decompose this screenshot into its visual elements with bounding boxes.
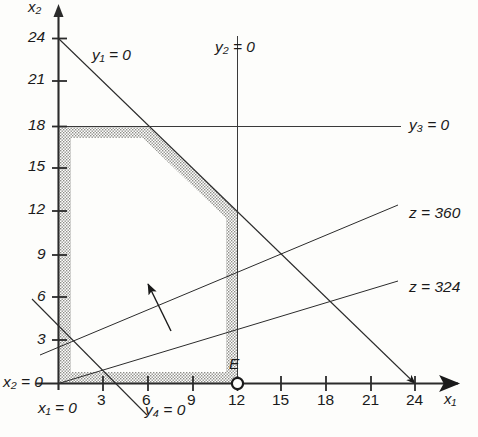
objective-label-z324: z = 324 bbox=[409, 278, 460, 296]
x-tick-label-9: 9 bbox=[187, 391, 196, 409]
improvement-direction-arrow bbox=[148, 284, 171, 331]
y-tick-label-3: 3 bbox=[37, 330, 46, 348]
constraint-label-y3: y₃ = 0 bbox=[409, 116, 449, 134]
point-label-E: E bbox=[229, 355, 239, 373]
x-tick-label-3: 3 bbox=[97, 391, 106, 409]
y-tick-label-21: 21 bbox=[28, 70, 45, 88]
constraint-label-y2: y₂ = 0 bbox=[215, 38, 255, 56]
constraint-label-y4: y₄ = 0 bbox=[145, 401, 185, 419]
y-axis-arrowhead bbox=[54, 4, 64, 17]
x1-equals-zero-label: x₁ = 0 bbox=[38, 399, 77, 417]
point-E-marker bbox=[232, 378, 243, 389]
x2-equals-zero-label: x₂ = 0 bbox=[3, 373, 43, 391]
x-tick-label-15: 15 bbox=[272, 391, 289, 409]
x-tick-label-24: 24 bbox=[406, 391, 423, 409]
y-tick-label-18: 18 bbox=[28, 116, 45, 134]
y-tick-label-12: 12 bbox=[28, 200, 45, 218]
constraint-label-y1: y₁ = 0 bbox=[92, 46, 131, 64]
y-tick-label-24: 24 bbox=[28, 28, 45, 46]
x-tick-label-21: 21 bbox=[362, 391, 379, 409]
x-tick-label-18: 18 bbox=[317, 391, 334, 409]
x-tick-label-12: 12 bbox=[228, 391, 245, 409]
y-tick-label-6: 6 bbox=[37, 287, 46, 305]
x-axis-label: x₁ bbox=[444, 390, 456, 407]
feasible-region-shading bbox=[60, 127, 238, 384]
y-tick-label-9: 9 bbox=[37, 245, 46, 263]
figure-canvas: x₂ x₁ 24 21 18 15 12 9 6 3 3 6 9 12 15 1… bbox=[0, 0, 478, 437]
line-z360 bbox=[40, 205, 398, 355]
objective-label-z360: z = 360 bbox=[409, 204, 460, 222]
y-tick-label-15: 15 bbox=[28, 157, 45, 175]
line-y4 bbox=[32, 299, 147, 415]
y-axis-label: x₂ bbox=[28, 0, 41, 15]
